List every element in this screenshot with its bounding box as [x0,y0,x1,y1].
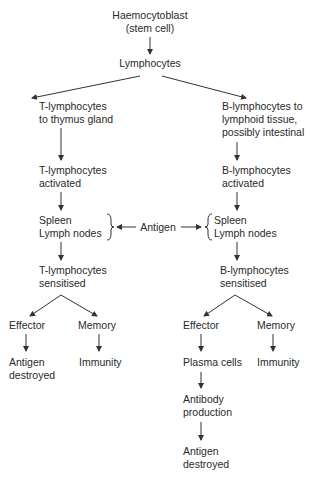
b-effector-label: Effector [183,319,219,331]
node-t-memory: Memory [78,319,117,331]
t-thymus-line2: to thymus gland [39,113,113,125]
b-spleen-label: Spleen [214,214,247,226]
t-sensitised-line2: sensitised [39,277,86,289]
arrow-to-b-branch [162,76,246,98]
arrow-to-t-branch [32,76,140,98]
node-b-activated: B-lymphocytes activated [222,164,291,189]
node-t-sensitised: T-lymphocytes sensitised [39,264,107,289]
antigen-label: Antigen [140,221,176,233]
arrow-t-to-memory [61,295,97,316]
b-antigen-destroyed-line1: Antigen [183,445,219,457]
b-antibody-line2: production [183,406,232,418]
node-haemocytoblast: Haemocytoblast (stem cell) [112,9,187,34]
b-activated-line2: activated [222,177,264,189]
arrow-b-to-memory [235,295,272,316]
b-lymphoid-line3: possibly intestinal [222,126,304,138]
t-antigen-destroyed-line1: Antigen [9,356,45,368]
stem-cell-label: (stem cell) [126,22,174,34]
node-b-organs: Spleen Lymph nodes [205,214,277,240]
b-memory-label: Memory [257,319,296,331]
t-immunity-label: Immunity [79,356,122,368]
t-sensitised-line1: T-lymphocytes [39,264,107,276]
t-activated-line1: T-lymphocytes [39,164,107,176]
node-t-thymus: T-lymphocytes to thymus gland [39,100,113,125]
node-b-sensitised: B-lymphocytes sensitised [220,264,289,289]
b-organs-brace [205,214,212,240]
immune-flowchart: Haemocytoblast (stem cell) Lymphocytes T… [0,0,315,478]
b-activated-line1: B-lymphocytes [222,164,291,176]
haemocytoblast-label: Haemocytoblast [112,9,187,21]
b-lymph-nodes-label: Lymph nodes [214,227,277,239]
node-t-organs: Spleen Lymph nodes [39,214,102,239]
node-b-antibody-production: Antibody production [183,393,232,418]
node-t-antigen-destroyed: Antigen destroyed [9,356,55,381]
arrow-t-to-effector [30,295,61,316]
lymphocytes-label: Lymphocytes [119,57,180,69]
node-antigen: Antigen [140,221,176,233]
b-sensitised-line2: sensitised [220,277,267,289]
node-b-effector: Effector [183,319,219,331]
t-spleen-label: Spleen [39,214,72,226]
t-antigen-destroyed-line2: destroyed [9,369,55,381]
b-lymphoid-line2: lymphoid tissue, [222,113,297,125]
node-t-immunity: Immunity [79,356,122,368]
node-t-effector: Effector [9,319,45,331]
t-organs-brace [107,214,114,240]
b-plasma-cells-label: Plasma cells [183,356,242,368]
b-immunity-label: Immunity [257,356,300,368]
arrow-b-to-effector [204,295,235,316]
node-b-antigen-destroyed: Antigen destroyed [183,445,229,470]
node-b-plasma-cells: Plasma cells [183,356,242,368]
t-activated-line2: activated [39,177,81,189]
node-b-immunity: Immunity [257,356,300,368]
t-thymus-line1: T-lymphocytes [39,100,107,112]
t-lymph-nodes-label: Lymph nodes [39,227,102,239]
t-effector-label: Effector [9,319,45,331]
node-b-memory: Memory [257,319,296,331]
node-lymphocytes: Lymphocytes [119,57,180,69]
t-memory-label: Memory [78,319,117,331]
node-t-activated: T-lymphocytes activated [39,164,107,189]
b-antibody-line1: Antibody [183,393,225,405]
b-lymphoid-line1: B-lymphocytes to [222,100,303,112]
b-antigen-destroyed-line2: destroyed [183,458,229,470]
node-b-lymphoid: B-lymphocytes to lymphoid tissue, possib… [222,100,304,138]
b-sensitised-line1: B-lymphocytes [220,264,289,276]
